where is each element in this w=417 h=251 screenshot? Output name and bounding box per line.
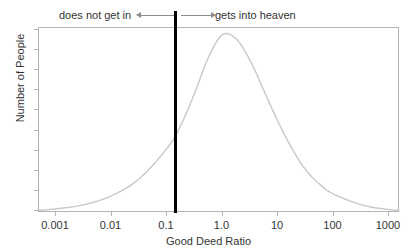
- x-axis-tick-label: 0.001: [25, 219, 85, 231]
- y-axis-tick: [34, 150, 38, 151]
- x-axis-tick-label: 100: [303, 219, 363, 231]
- x-axis-tick: [166, 212, 167, 216]
- y-axis-tick: [34, 69, 38, 70]
- plot-area: [38, 27, 399, 212]
- x-axis-tick-label: 0.1: [136, 219, 196, 231]
- x-axis-tick: [277, 212, 278, 216]
- threshold-line: [174, 11, 177, 213]
- x-axis-tick-label: 0.01: [81, 219, 141, 231]
- y-axis-tick: [34, 29, 38, 30]
- distribution-curve: [39, 28, 400, 213]
- annotation-label-gets-into-heaven: gets into heaven: [215, 9, 296, 21]
- x-axis-tick-label: 10: [247, 219, 307, 231]
- x-axis-tick: [222, 212, 223, 216]
- annotation-arrow-left: [139, 15, 177, 16]
- y-axis-label: Number of People: [14, 18, 26, 138]
- y-axis-tick: [34, 49, 38, 50]
- x-axis-tick-label: 1000: [358, 219, 417, 231]
- x-axis-tick: [111, 212, 112, 216]
- y-axis-tick: [34, 89, 38, 90]
- y-axis-tick: [34, 210, 38, 211]
- x-axis-tick: [333, 212, 334, 216]
- y-axis-tick: [34, 190, 38, 191]
- annotation-arrow-right: [181, 15, 212, 16]
- annotation-label-does-not-get-in: does not get in: [59, 9, 131, 21]
- y-axis-tick: [34, 109, 38, 110]
- x-axis-label: Good Deed Ratio: [0, 235, 417, 247]
- y-axis-tick: [34, 170, 38, 171]
- x-axis-tick: [388, 212, 389, 216]
- y-axis-tick: [34, 130, 38, 131]
- x-axis-tick: [55, 212, 56, 216]
- x-axis-tick-label: 1.0: [192, 219, 252, 231]
- chart-figure: does not get in gets into heaven Number …: [0, 0, 417, 251]
